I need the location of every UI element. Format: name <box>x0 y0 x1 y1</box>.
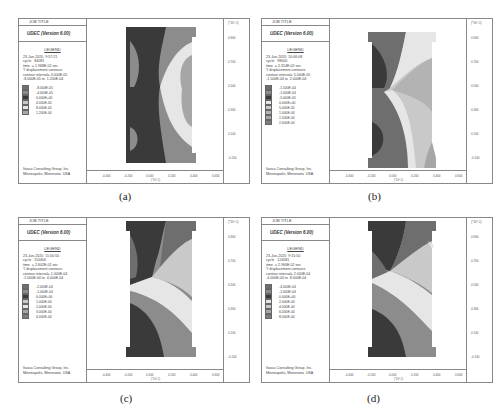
udec-plot-panel-d: JOB TITLE UDEC (Version 6.00) LEGEND 23-… <box>261 217 493 383</box>
udec-plot-panel-c: JOB TITLE UDEC (Version 6.00) LEGEND 23-… <box>18 217 250 383</box>
y-axis: (*10^-1) 0.900 0.700 0.500 0.300 0.100 -… <box>223 19 249 183</box>
legend-sidebar: JOB TITLE UDEC (Version 6.00) LEGEND 23-… <box>262 19 330 183</box>
contour-legend: -8.000E-05 -4.000E-05 0.000E+00 4.000E-0… <box>19 85 86 115</box>
job-title: JOB TITLE <box>19 218 86 225</box>
job-title: JOB TITLE <box>262 19 329 26</box>
plot-area <box>87 218 223 370</box>
job-title: JOB TITLE <box>262 218 329 225</box>
company-credit: Itasca Consulting Group, Inc. Minneapoli… <box>266 366 313 376</box>
legend-title: LEGEND <box>262 246 329 251</box>
udec-plot-panel-a: JOB TITLE UDEC (Version 6.00) LEGEND 23-… <box>18 18 250 184</box>
legend-info: 23-Jun-2020 9:57:21 cycle 84081 time = 1… <box>19 55 86 81</box>
plot-area <box>330 19 466 171</box>
company-credit: Itasca Consulting Group, Inc. Minneapoli… <box>23 167 70 177</box>
y-axis: (*10^-1) 0.900 0.700 0.500 0.300 0.100 -… <box>223 218 249 382</box>
y-axis: (*10^-1) 0.900 0.700 0.500 0.300 0.100 -… <box>466 218 492 382</box>
legend-sidebar: JOB TITLE UDEC (Version 6.00) LEGEND 23-… <box>19 218 87 382</box>
contour-legend: -2.000E-04 -1.000E-04 0.000E+00 1.000E-0… <box>19 284 86 319</box>
contour-legend: -4.000E-04 -2.000E-04 0.000E+00 2.000E-0… <box>262 284 329 319</box>
x-axis: -0.400 -0.200 0.000 0.200 0.400 0.600 (*… <box>330 369 466 382</box>
contour-legend: -1.500E-04 -1.000E-04 -5.000E-05 0.000E+… <box>262 85 329 125</box>
rock-specimen-contour <box>126 27 196 163</box>
x-axis: -0.400 -0.200 0.000 0.200 0.400 0.600 (*… <box>87 170 223 183</box>
legend-sidebar: JOB TITLE UDEC (Version 6.00) LEGEND 23-… <box>19 19 87 183</box>
x-axis: -0.400 -0.200 0.000 0.200 0.400 0.600 (*… <box>87 369 223 382</box>
legend-entry: 8.000E-04 <box>265 314 329 319</box>
program-title: UDEC (Version 6.00) <box>262 26 329 42</box>
plot-area <box>330 218 466 370</box>
rock-specimen-contour <box>126 221 196 357</box>
company-credit: Itasca Consulting Group, Inc. Minneapoli… <box>266 167 313 177</box>
caption-b: (b) <box>368 190 381 202</box>
legend-info: 23-Jun-2020 10:06:08 cycle 98000 time = … <box>262 55 329 81</box>
legend-entry: 2.000E-04 <box>265 120 329 125</box>
x-axis: -0.400 -0.200 0.000 0.200 0.400 0.600 (*… <box>330 170 466 183</box>
legend-entry: 1.200E-04 <box>22 110 86 115</box>
caption-a: (a) <box>119 190 131 202</box>
udec-plot-panel-b: JOB TITLE UDEC (Version 6.00) LEGEND 23-… <box>261 18 493 184</box>
legend-title: LEGEND <box>19 246 86 251</box>
legend-title: LEGEND <box>262 47 329 52</box>
legend-entry: 4.000E-04 <box>22 314 86 319</box>
program-title: UDEC (Version 6.00) <box>19 26 86 42</box>
rock-specimen-contour <box>368 221 436 357</box>
company-credit: Itasca Consulting Group, Inc. Minneapoli… <box>23 366 70 376</box>
caption-d: (d) <box>367 392 380 404</box>
program-title: UDEC (Version 6.00) <box>262 225 329 241</box>
rock-specimen-contour <box>368 32 436 168</box>
job-title: JOB TITLE <box>19 19 86 26</box>
plot-area <box>87 19 223 171</box>
legend-info: 23-Jun-2020 9:15:50 cycle 124081 time = … <box>262 254 329 280</box>
caption-c: (c) <box>120 392 132 404</box>
legend-title: LEGEND <box>19 47 86 52</box>
program-title: UDEC (Version 6.00) <box>19 225 86 241</box>
legend-sidebar: JOB TITLE UDEC (Version 6.00) LEGEND 23-… <box>262 218 330 382</box>
legend-info: 23-Jun-2020 11:00:50 cycle 110400 time =… <box>19 254 86 280</box>
y-axis: (*10^-1) 0.900 0.700 0.500 0.300 0.100 -… <box>466 19 492 183</box>
